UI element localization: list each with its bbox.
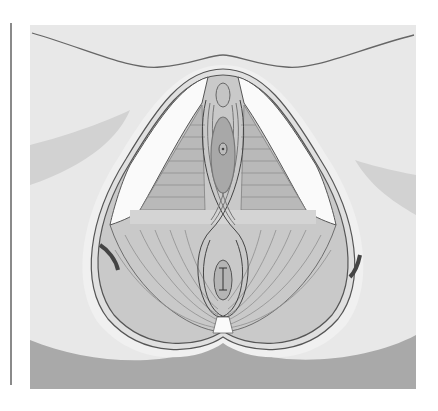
coccyx (213, 317, 233, 333)
transverse-perineal-band (130, 210, 316, 224)
left-margin-rule (10, 23, 12, 385)
pelvic-floor-diagram (30, 25, 416, 389)
clitoris (216, 83, 230, 107)
